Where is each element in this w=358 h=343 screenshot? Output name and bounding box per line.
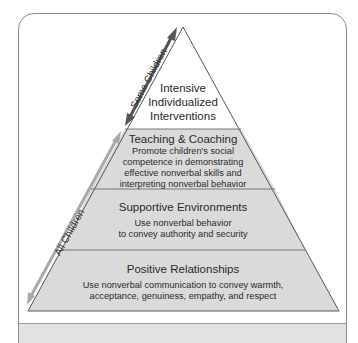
tier-top-line-1: Intensive [133,81,233,95]
tier-top-line-2: Individualized [133,95,233,109]
tier-positive-line: Use nonverbal communication to convey wa… [63,280,303,291]
tier-teaching: Teaching & Coaching Promote children's s… [98,132,268,190]
tier-teaching-line: interpreting nonverbal behavior [98,179,268,190]
tier-teaching-line: competence in demonstrating [98,157,268,168]
tier-top-line-3: Interventions [133,109,233,123]
tier-positive-title: Positive Relationships [63,262,303,276]
tier-supportive-title: Supportive Environments [83,200,283,214]
tier-teaching-line: effective nonverbal skills and [98,168,268,179]
tier-supportive: Supportive Environments Use nonverbal be… [83,200,283,240]
tier-supportive-line: to convey authority and security [83,229,283,240]
tier-positive: Positive Relationships Use nonverbal com… [63,262,303,302]
tier-top-label: Intensive Individualized Interventions [133,81,233,123]
tier-positive-line: acceptance, genuiness, empathy, and resp… [63,291,303,302]
tier-teaching-title: Teaching & Coaching [98,132,268,146]
tier-teaching-line: Promote children's social [98,146,268,157]
tier-supportive-line: Use nonverbal behavior [83,218,283,229]
